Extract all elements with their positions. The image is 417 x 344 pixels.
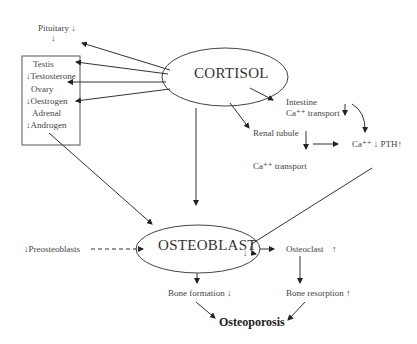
renal-label: Renal tubule xyxy=(253,128,299,138)
bone-formation-label: Bone formation ↓ xyxy=(168,288,232,298)
osteoblast-arrow: ↓ xyxy=(243,248,248,258)
ca-pth-label: Ca⁺⁺ ↓ PTH↑ xyxy=(352,139,402,149)
ovary-label: Ovary xyxy=(31,84,54,94)
intestine-label: Intestine xyxy=(286,97,317,107)
bone-resorption-label: Bone resorption ↑ xyxy=(286,288,351,298)
osteoporosis-label: Osteoporosis xyxy=(219,317,285,327)
preosteoblasts-label: ↓Preosteoblasts xyxy=(24,244,80,254)
testosterone-label: ↓Testosterone xyxy=(26,71,76,81)
pituitary-arrow: ↓ xyxy=(51,33,56,43)
oestrogen-label: ↓Oestrogen xyxy=(26,96,68,106)
testis-label: Testis xyxy=(33,59,54,69)
adrenal-label: Adrenal xyxy=(32,108,61,118)
intestine-ca-label: Ca⁺⁺ transport xyxy=(286,108,340,118)
pituitary-label: Pituitary ↓ xyxy=(38,23,76,33)
renal-ca-label: Ca⁺⁺ transport xyxy=(253,161,307,171)
osteoclast-label: Osteoclast xyxy=(286,244,324,254)
cortisol-label: CORTISOL xyxy=(194,68,269,78)
androgen-label: ↓Androgen xyxy=(26,120,67,130)
osteoclast-arrow: ↑ xyxy=(332,244,337,254)
